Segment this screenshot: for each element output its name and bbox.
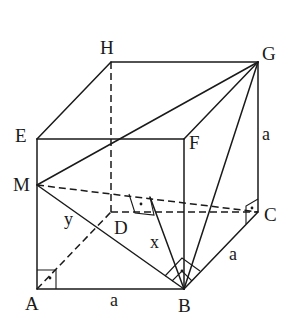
right-angle-dot-foot (140, 203, 143, 206)
edge-EH (37, 62, 111, 139)
vertex-label-B: B (178, 296, 191, 315)
vertex-label-H: H (100, 38, 114, 57)
right-angle-dot-B (181, 270, 184, 273)
vertex-label-G: G (262, 44, 276, 63)
segment-label-BC: a (229, 245, 237, 263)
vertex-label-D: D (114, 218, 128, 237)
segment-MG (37, 62, 258, 185)
right-angle-dot-A (49, 277, 52, 280)
right-angle-dot-C (251, 207, 254, 210)
edge-BC (184, 212, 258, 289)
segment-label-CG: a (262, 125, 270, 143)
diagram-canvas (0, 0, 301, 328)
segment-label-x: x (150, 233, 159, 251)
vertex-label-A: A (25, 294, 39, 313)
hidden-edge-AD (37, 212, 111, 289)
right-angle-B (165, 258, 200, 276)
segment-label-y: y (64, 210, 73, 228)
segment-BG (184, 62, 258, 289)
segment-label-AB: a (110, 291, 118, 309)
cube-diagram: H G E F M D C A B a a a y x (0, 0, 301, 328)
edge-FG (184, 62, 258, 139)
vertex-label-M: M (13, 175, 30, 194)
vertex-label-E: E (15, 126, 27, 145)
vertex-label-F: F (189, 133, 200, 152)
vertex-label-C: C (264, 205, 277, 224)
